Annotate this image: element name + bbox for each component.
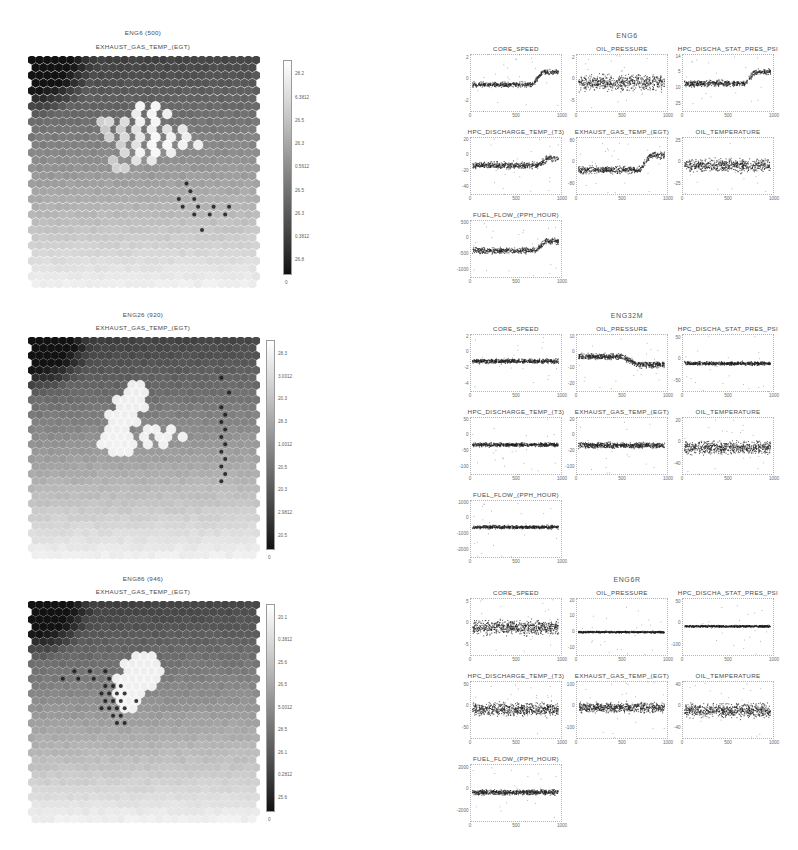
scatter-x-tick-label: 500 bbox=[512, 741, 520, 746]
scatter-y-tick-label: 0 bbox=[678, 621, 681, 626]
scatter-x-tick-label: 0 bbox=[681, 477, 684, 482]
scatter-subplot[interactable]: FUEL_FLOW_(PPH_HOUR)5000-500-10000500100… bbox=[470, 220, 562, 278]
scatter-subplot[interactable]: CORE_SPEED20-205001000 bbox=[470, 54, 562, 112]
scatter-subplot-title: EXHAUST_GAS_TEMP_(EGT) bbox=[564, 409, 680, 415]
scatter-y-tick-label: -20 bbox=[568, 382, 575, 387]
scatter-y-tick-label: 0 bbox=[466, 516, 469, 521]
scatter-points bbox=[576, 598, 668, 656]
scatter-x-tick-label: 1000 bbox=[663, 394, 673, 399]
scatter-x-tick-label: 500 bbox=[618, 658, 626, 663]
scatter-y-tick-label: 0 bbox=[466, 77, 469, 82]
scatter-subplot[interactable]: HPC_DISCHA_STAT_PRES_PSI145102505001000 bbox=[682, 54, 774, 112]
scatter-y-tick-label: 0 bbox=[572, 630, 575, 635]
scatter-y-tick-label: 50 bbox=[675, 600, 680, 605]
colorbar-min-label-row-2: 0 bbox=[268, 555, 271, 560]
scatter-y-tick-label: 0 bbox=[466, 433, 469, 438]
colorbar-min-label-row-1: 0 bbox=[285, 280, 288, 285]
scatter-y-tick-label: -2000 bbox=[457, 548, 469, 553]
colorbar-tick-label: 25.6 bbox=[278, 661, 287, 666]
colorbar-tick-label: 3.0012 bbox=[278, 374, 292, 379]
scatter-points bbox=[470, 137, 562, 195]
scatter-y-tick-label: 50 bbox=[675, 336, 680, 341]
scatter-y-tick-label: -500 bbox=[459, 252, 468, 257]
scatter-group-title-row-1: ENG6 bbox=[462, 32, 792, 39]
colorbar-tick-label: 26.5 bbox=[295, 119, 304, 124]
scatter-y-tick-label: 2 bbox=[466, 56, 469, 61]
som-hexmap-row-2 bbox=[28, 337, 260, 559]
scatter-x-tick-label: 500 bbox=[618, 114, 626, 119]
colorbar-tick-label: 25.6 bbox=[278, 796, 287, 801]
scatter-x-tick-label: 500 bbox=[724, 394, 732, 399]
scatter-subplot-title: FUEL_FLOW_(PPH_HOUR) bbox=[458, 212, 574, 218]
scatter-x-tick-label: 500 bbox=[618, 394, 626, 399]
scatter-subplot[interactable]: FUEL_FLOW_(PPH_HOUR)10000-1000-200005001… bbox=[470, 500, 562, 558]
scatter-x-tick-label: 0 bbox=[469, 280, 472, 285]
scatter-subplot[interactable]: OIL_TEMPERATURE200-4005001000 bbox=[682, 417, 774, 475]
colorbar-tick-label: 26.3 bbox=[295, 142, 304, 147]
scatter-x-tick-label: 500 bbox=[618, 477, 626, 482]
scatter-x-tick-label: 500 bbox=[512, 280, 520, 285]
scatter-y-tick-label: -80 bbox=[568, 182, 575, 187]
scatter-subplot[interactable]: HPC_DISCHARGE_TEMP_(T3)500-50-1000500100… bbox=[470, 417, 562, 475]
scatter-subplot-title: HPC_DISCHA_STAT_PRES_PSI bbox=[670, 590, 786, 596]
scatter-subplot[interactable]: HPC_DISCHA_STAT_PRES_PSI500-5005001000 bbox=[682, 334, 774, 392]
scatter-subplot[interactable]: HPC_DISCHARGE_TEMP_(T3)200-20-4005001000 bbox=[470, 137, 562, 195]
scatter-points bbox=[576, 334, 668, 392]
scatter-x-tick-label: 1000 bbox=[663, 197, 673, 202]
colorbar-gradient-row-2 bbox=[266, 340, 275, 550]
scatter-y-tick-label: 0 bbox=[572, 77, 575, 82]
scatter-x-tick-label: 500 bbox=[512, 560, 520, 565]
scatter-subplot[interactable]: OIL_TEMPERATURE400-4005001000 bbox=[682, 681, 774, 739]
scatter-y-tick-label: 0 bbox=[678, 160, 681, 165]
colorbar-tick-label: 26.5 bbox=[278, 683, 287, 688]
scatter-subplot[interactable]: OIL_PRESSURE100-10-2005001000 bbox=[576, 334, 668, 392]
colorbar-tick-label: 0.2812 bbox=[278, 773, 292, 778]
scatter-x-tick-label: 0 bbox=[681, 114, 684, 119]
scatter-subplot[interactable]: CORE_SPEED20-2-405001000 bbox=[470, 334, 562, 392]
scatter-subplot[interactable]: CORE_SPEED50-505001000 bbox=[470, 598, 562, 656]
scatter-subplot-title: OIL_PRESSURE bbox=[564, 46, 680, 52]
scatter-subplot[interactable]: OIL_PRESSURE20100-1005001000 bbox=[576, 598, 668, 656]
scatter-group-row-1: ENG6 CORE_SPEED20-205001000OIL_PRESSURE2… bbox=[462, 32, 792, 287]
colorbar-tick-label: 0.3812 bbox=[295, 235, 309, 240]
scatter-x-tick-label: 1000 bbox=[557, 197, 567, 202]
colorbar-tick-label: 28.3 bbox=[278, 420, 287, 425]
scatter-y-tick-label: 40 bbox=[675, 683, 680, 688]
scatter-x-tick-label: 1000 bbox=[557, 394, 567, 399]
scatter-points bbox=[682, 681, 774, 739]
scatter-subplot[interactable]: EXHAUST_GAS_TEMP_(EGT)200-20-10005001000 bbox=[576, 417, 668, 475]
scatter-y-tick-label: -50 bbox=[674, 379, 681, 384]
scatter-points bbox=[576, 681, 668, 739]
scatter-subplot-title: EXHAUST_GAS_TEMP_(EGT) bbox=[564, 673, 680, 679]
scatter-points bbox=[470, 598, 562, 656]
scatter-group-row-3: ENG6R CORE_SPEED50-505001000OIL_PRESSURE… bbox=[462, 576, 792, 831]
scatter-subplot-title: CORE_SPEED bbox=[458, 46, 574, 52]
scatter-y-tick-label: 10 bbox=[569, 614, 574, 619]
figure-canvas: ENG6 (500) EXHAUST_GAS_TEMP_(EGT) 28.26.… bbox=[0, 0, 798, 850]
som-block-row-3: ENG86 (946) EXHAUST_GAS_TEMP_(EGT) 20.10… bbox=[8, 576, 308, 826]
scatter-subplot-title: OIL_PRESSURE bbox=[564, 326, 680, 332]
colorbar-tick-label: 28.5 bbox=[278, 728, 287, 733]
colorbar-tick-label: 28.3 bbox=[278, 352, 287, 357]
scatter-subplot[interactable]: OIL_TEMPERATURE250-2505001000 bbox=[682, 137, 774, 195]
scatter-points bbox=[576, 137, 668, 195]
colorbar-tick-label: 26.8 bbox=[295, 258, 304, 263]
scatter-subplot[interactable]: EXHAUST_GAS_TEMP_(EGT)800-8005001000 bbox=[576, 137, 668, 195]
scatter-y-tick-label: 2000 bbox=[458, 766, 468, 771]
colorbar-gradient-row-1 bbox=[283, 60, 292, 275]
scatter-x-tick-label: 500 bbox=[512, 114, 520, 119]
colorbar-tick-label: 20.3 bbox=[278, 397, 287, 402]
scatter-x-tick-label: 0 bbox=[469, 658, 472, 663]
scatter-subplot[interactable]: HPC_DISCHARGE_TEMP_(T3)500-5005001000 bbox=[470, 681, 562, 739]
scatter-subplot[interactable]: HPC_DISCHA_STAT_PRES_PSI500-10005001000 bbox=[682, 598, 774, 656]
scatter-subplot[interactable]: EXHAUST_GAS_TEMP_(EGT)1000-10005001000 bbox=[576, 681, 668, 739]
scatter-y-tick-label: 0 bbox=[678, 440, 681, 445]
scatter-x-tick-label: 0 bbox=[575, 658, 578, 663]
scatter-x-tick-label: 1000 bbox=[769, 197, 779, 202]
som-block-row-2: ENG26 (920) EXHAUST_GAS_TEMP_(EGT) 28.33… bbox=[8, 312, 308, 562]
scatter-y-tick-label: -10 bbox=[568, 646, 575, 651]
som-map-title-row-3: ENG86 (946) bbox=[8, 576, 278, 582]
scatter-subplot[interactable]: OIL_PRESSURE20-505001000 bbox=[576, 54, 668, 112]
scatter-y-tick-label: 100 bbox=[567, 683, 575, 688]
scatter-subplot[interactable]: FUEL_FLOW_(PPH_HOUR)20000-200005001000 bbox=[470, 764, 562, 822]
